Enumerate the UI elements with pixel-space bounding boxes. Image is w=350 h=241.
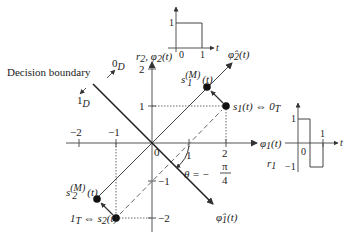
s1-point bbox=[222, 102, 230, 110]
svg-text:1: 1 bbox=[291, 113, 296, 124]
phi1-axis-label: φ1(t) bbox=[260, 137, 282, 151]
x-tick-neg2: −2 bbox=[70, 126, 82, 138]
inset-phi1-waveform: 1 −1 0 1 t bbox=[285, 103, 343, 172]
svg-text:1: 1 bbox=[200, 49, 205, 60]
x-tick-neg1: −1 bbox=[108, 126, 120, 138]
svg-text:−1: −1 bbox=[285, 161, 296, 172]
x-tick-2-num: 2 bbox=[222, 147, 228, 159]
decision-boundary-line bbox=[93, 84, 213, 204]
decision-boundary-label: Decision boundary bbox=[7, 66, 91, 78]
inset-phi2-waveform: 1 0 1 t bbox=[168, 7, 219, 60]
svg-text:t: t bbox=[216, 42, 219, 53]
phi2-axis-label: r2, φ2(t) bbox=[136, 50, 173, 64]
y-tick-neg1: −1 bbox=[158, 175, 170, 187]
s2-label: 1T ⇔ s2(t) bbox=[70, 212, 118, 226]
theta-numerator: π bbox=[222, 160, 228, 172]
phi2-hat-label: φ̂2(t) bbox=[228, 48, 250, 62]
theta-label: θ = − bbox=[184, 168, 210, 180]
s1-label: s1(t) ⇔ 0T bbox=[233, 100, 282, 114]
svg-text:t: t bbox=[340, 137, 343, 148]
signal-space-diagram: −2 −1 1 2 2 1 −1 −2 0 Decision boundary … bbox=[0, 0, 350, 241]
s2m-label: s(M)2(t) bbox=[66, 182, 98, 201]
y-tick-1: 1 bbox=[139, 100, 145, 112]
y-tick-neg2: −2 bbox=[158, 212, 170, 224]
svg-text:1: 1 bbox=[320, 128, 325, 139]
s1-mapping-arrow bbox=[211, 91, 223, 103]
y-tick-2: 2 bbox=[139, 63, 145, 75]
region-0d-arrow bbox=[107, 70, 115, 78]
theta-denominator: 4 bbox=[222, 174, 228, 186]
svg-text:0: 0 bbox=[301, 146, 306, 157]
r1-label: r1 bbox=[267, 157, 276, 171]
svg-text:0D: 0D bbox=[112, 57, 126, 72]
svg-text:1: 1 bbox=[169, 17, 174, 28]
svg-text:0: 0 bbox=[179, 49, 184, 60]
svg-text:1D: 1D bbox=[77, 94, 91, 109]
phi1-hat-label: φ̂1(t) bbox=[216, 211, 238, 225]
